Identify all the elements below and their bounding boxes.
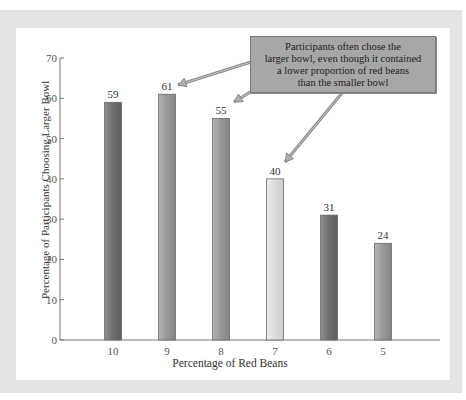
bar	[375, 243, 392, 340]
x-tick-label: 6	[326, 345, 332, 357]
y-tick-label: 0	[52, 334, 58, 346]
bar	[105, 102, 122, 340]
callout-arrow-highlight	[285, 93, 342, 162]
bar	[321, 215, 338, 340]
y-axis-label: Percentage of Participants Choosing Larg…	[39, 89, 51, 299]
x-tick-label: 10	[108, 345, 120, 357]
bar-value-label: 59	[108, 88, 120, 100]
callout-line: larger bowl, even though it contained	[251, 53, 435, 65]
callout-line: Participants often chose the	[251, 41, 435, 53]
bar-value-label: 40	[270, 165, 282, 177]
x-tick-label: 7	[272, 345, 278, 357]
bar-value-label: 24	[378, 229, 390, 241]
bars: 5910619558407316245	[105, 80, 392, 357]
bar-value-label: 55	[216, 104, 228, 116]
bar-value-label: 31	[324, 201, 335, 213]
x-tick-label: 9	[164, 345, 170, 357]
bar	[213, 118, 230, 340]
callout-line: than the smaller bowl	[251, 77, 435, 89]
bar	[159, 94, 176, 340]
bar	[267, 179, 284, 340]
bar-value-label: 61	[162, 80, 173, 92]
callout-line: a lower proportion of red beans	[251, 65, 435, 77]
callout-arrow-highlight	[178, 62, 251, 85]
arrowhead-icon	[178, 78, 187, 87]
x-axis-label: Percentage of Red Beans	[120, 357, 340, 369]
x-tick-label: 8	[218, 345, 224, 357]
annotation-callout: Participants often chose the larger bowl…	[250, 36, 436, 93]
x-tick-label: 5	[380, 345, 386, 357]
y-tick-label: 70	[46, 52, 58, 64]
